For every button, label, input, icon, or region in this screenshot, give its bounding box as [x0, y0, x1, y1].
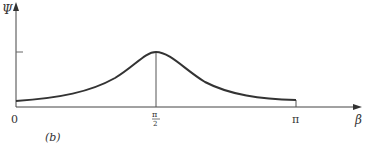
- panel-label: (b): [45, 131, 61, 144]
- pi-half-denominator: 2: [153, 120, 157, 128]
- x-axis-label: β: [354, 113, 362, 127]
- y-axis-arrow-icon: [13, 2, 19, 11]
- x-axis-arrow-icon: [353, 104, 362, 110]
- pi-label: π: [292, 113, 299, 126]
- pi-half-numerator: π: [152, 110, 157, 119]
- y-axis-label: Ψ: [2, 3, 13, 17]
- origin-label: 0: [11, 113, 18, 126]
- chart-canvas: Ψ β 0 π 2 π (b): [0, 0, 367, 147]
